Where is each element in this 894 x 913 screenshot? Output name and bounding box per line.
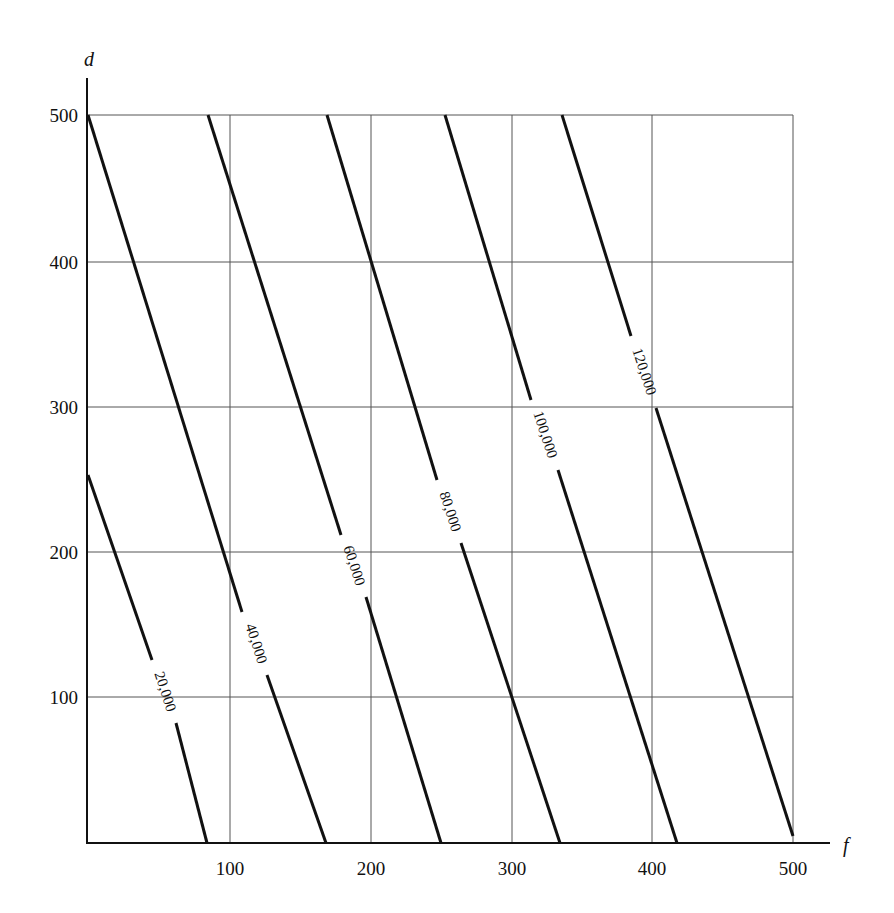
y-tick-label: 100 [50, 687, 79, 708]
x-tick-labels: 100 200 300 400 500 [216, 858, 808, 879]
contour-line-40000 [267, 675, 326, 843]
y-tick-labels: 100 200 300 400 500 [50, 105, 79, 708]
contour-line-20000 [176, 723, 207, 843]
contour-line-120000 [656, 408, 793, 836]
x-tick-label: 100 [216, 858, 245, 879]
x-tick-label: 200 [357, 858, 386, 879]
contour-chart: d f 100 200 300 400 500 100 200 300 400 … [0, 0, 894, 913]
y-tick-label: 500 [50, 105, 79, 126]
y-tick-label: 300 [50, 397, 79, 418]
contour-line-80000 [461, 543, 560, 843]
contour-label-40000: 40,000 [243, 621, 271, 665]
contour-line-100000 [445, 115, 531, 400]
contour-label-100000: 100,000 [530, 409, 560, 460]
y-axis-label: d [84, 48, 95, 70]
contour-labels: 20,000 40,000 60,000 80,000 100,000 120,… [152, 346, 660, 714]
contour-line-100000 [558, 470, 677, 843]
contour-line-20000 [88, 475, 152, 660]
y-tick-label: 200 [50, 542, 79, 563]
contour-lines [88, 115, 793, 843]
x-tick-label: 400 [638, 858, 667, 879]
contour-line-120000 [562, 115, 631, 336]
x-axis-label: f [843, 834, 851, 857]
contour-line-60000 [366, 597, 441, 843]
contour-label-60000: 60,000 [341, 543, 369, 587]
x-tick-label: 500 [779, 858, 808, 879]
contour-label-80000: 80,000 [437, 489, 465, 533]
y-tick-label: 400 [50, 252, 79, 273]
contour-line-60000 [208, 115, 341, 535]
contour-label-20000: 20,000 [152, 669, 180, 713]
contour-line-80000 [327, 115, 437, 480]
grid [87, 115, 793, 843]
x-tick-label: 300 [498, 858, 527, 879]
contour-label-120000: 120,000 [629, 346, 659, 397]
